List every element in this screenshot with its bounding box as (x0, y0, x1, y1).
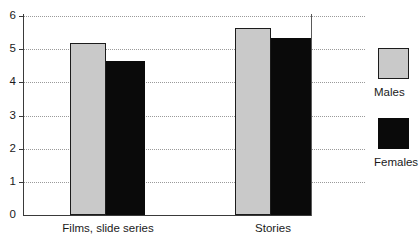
bar-males-films (70, 43, 106, 215)
y-tick-label-1: 1 (0, 176, 16, 188)
y-axis-labels: 6 5 4 3 2 1 0 (0, 0, 16, 250)
category-label-films: Films, slide series (42, 222, 174, 235)
y-tick-label-4: 4 (0, 76, 16, 88)
bar-chart: 6 5 4 3 2 1 0 Films, slide series Storie… (0, 0, 419, 250)
y-axis-tick-4 (19, 82, 24, 83)
y-axis-tick-6 (19, 16, 24, 17)
x-axis-line (23, 215, 312, 216)
y-axis-line (23, 14, 24, 216)
legend-label-females: Females (374, 156, 419, 169)
y-tick-label-0: 0 (0, 209, 16, 221)
bar-males-stories (235, 28, 271, 215)
y-tick-label-3: 3 (0, 110, 16, 122)
category-label-stories: Stories (215, 222, 331, 235)
bar-females-films (106, 61, 145, 215)
y-tick-label-2: 2 (0, 143, 16, 155)
y-axis-tick-5 (19, 49, 24, 50)
y-axis-tick-2 (19, 149, 24, 150)
gridline-6 (24, 16, 365, 17)
males-swatch-icon (378, 48, 409, 79)
y-tick-label-6: 6 (0, 10, 16, 22)
bar-females-stories (271, 38, 311, 215)
y-axis-tick-1 (19, 182, 24, 183)
females-swatch-icon (378, 118, 409, 149)
legend-label-males: Males (374, 86, 419, 99)
y-tick-label-5: 5 (0, 43, 16, 55)
plot-area-right-edge (311, 14, 312, 216)
y-axis-tick-3 (19, 116, 24, 117)
